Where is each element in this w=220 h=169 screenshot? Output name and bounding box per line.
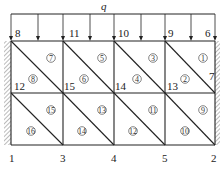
node-label: 14 [115,80,127,92]
node-label: 1 [9,152,15,164]
node-label: 9 [168,27,174,39]
element-label: 3 [151,54,155,63]
node-label: 5 [162,152,168,164]
arrowhead-icon [112,36,116,41]
node-label: 13 [167,80,179,92]
element-label: 8 [31,75,35,84]
element-label: 15 [47,106,55,115]
node-label: 12 [14,80,25,92]
element-label: 12 [129,127,137,136]
load-arrows [9,14,217,41]
arrowhead-icon [189,36,193,41]
arrowhead-icon [88,36,92,41]
arrowhead-icon [163,36,167,41]
node-label: 15 [64,80,76,92]
arrowhead-icon [36,36,40,41]
node-label: 3 [60,152,66,164]
element-label: 1 [201,54,205,63]
node-label: 11 [69,27,80,39]
truss-diagram: q 811109612151413713452 1234567891011121… [0,0,220,169]
load-label-q: q [101,0,107,12]
right-wall-support [215,41,220,145]
element-label: 11 [149,106,157,115]
node-label: 6 [205,27,211,39]
node-label: 8 [15,27,21,39]
node-label: 7 [209,70,215,82]
element-label: 14 [78,127,86,136]
element-label: 9 [201,106,205,115]
element-label: 16 [27,127,35,136]
element-label: 5 [100,54,104,63]
arrowhead-icon [61,36,65,41]
arrowhead-icon [9,36,13,41]
element-label: 2 [183,75,187,84]
left-wall-support [4,41,11,145]
element-label: 4 [135,75,139,84]
element-label: 7 [49,54,53,63]
arrowhead-icon [213,36,217,41]
element-label: 10 [181,127,189,136]
element-label: 6 [82,75,86,84]
arrowhead-icon [139,36,143,41]
element-labels: 12345678910111213141516 [27,54,208,136]
element-label: 13 [98,106,106,115]
node-label: 4 [111,152,117,164]
node-label: 2 [211,152,217,164]
node-label: 10 [118,27,130,39]
